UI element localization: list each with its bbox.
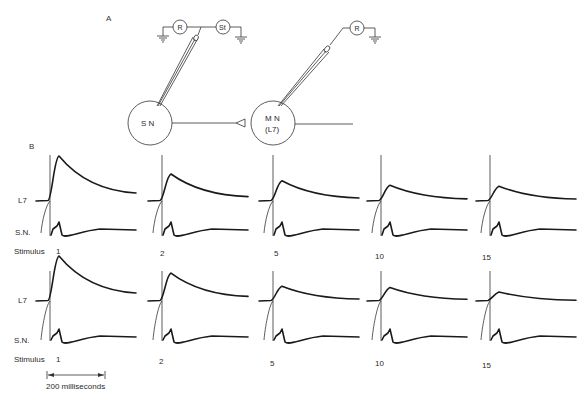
l7-epsp-trace bbox=[36, 156, 136, 201]
l7-epsp-trace bbox=[367, 288, 467, 302]
sn-pre-trace bbox=[264, 301, 273, 340]
l7-epsp-trace bbox=[148, 174, 248, 201]
sn-action-potential-trace bbox=[382, 222, 467, 236]
sn-action-potential-trace bbox=[51, 329, 136, 343]
motor-neuron-label: M N bbox=[265, 114, 280, 123]
scale-bar-label: 200 milliseconds bbox=[46, 382, 105, 391]
wire bbox=[364, 28, 375, 37]
sn-pre-trace bbox=[153, 201, 162, 233]
row-label-sn: S.N. bbox=[15, 228, 31, 237]
panel-a: A R St bbox=[106, 14, 381, 145]
stimulus-number: 2 bbox=[160, 249, 165, 258]
sn-action-potential-trace bbox=[274, 329, 359, 343]
stimulator-st-label: St bbox=[219, 24, 226, 31]
sn-action-potential-trace bbox=[274, 222, 359, 236]
synapse-terminal-icon bbox=[236, 119, 245, 127]
arrow-right-icon bbox=[98, 373, 104, 377]
stimulus-number: 1 bbox=[56, 355, 61, 364]
sn-action-potential-trace bbox=[51, 222, 136, 236]
sn-pre-trace bbox=[41, 301, 50, 340]
recorder-r-label-2: R bbox=[355, 25, 360, 32]
stimulus-number: 5 bbox=[270, 359, 275, 368]
row-label-stimulus: Stimulus bbox=[14, 247, 45, 256]
time-scale-bar: 200 milliseconds bbox=[46, 371, 105, 391]
microelectrode-mn bbox=[278, 28, 350, 106]
sn-pre-trace bbox=[41, 201, 50, 233]
l7-epsp-trace bbox=[476, 186, 576, 201]
sn-pre-trace bbox=[372, 301, 381, 340]
l7-epsp-trace bbox=[259, 181, 359, 201]
wire bbox=[230, 27, 241, 37]
row-label-l7: L7 bbox=[18, 196, 27, 205]
sn-action-potential-trace bbox=[491, 222, 576, 236]
arrow-left-icon bbox=[48, 373, 54, 377]
stimulus-number: 15 bbox=[482, 253, 491, 262]
motor-neuron-sublabel: (L7) bbox=[265, 125, 280, 134]
l7-epsp-trace bbox=[36, 256, 136, 301]
figure: A R St bbox=[0, 0, 586, 403]
stim-record-circuit: R St bbox=[157, 20, 247, 106]
l7-epsp-trace bbox=[367, 185, 467, 201]
sn-pre-trace bbox=[153, 301, 162, 340]
sensory-neuron-label: S N bbox=[141, 119, 155, 128]
sn-action-potential-trace bbox=[163, 222, 248, 236]
stimulus-number: 10 bbox=[375, 359, 384, 368]
l7-epsp-trace bbox=[476, 292, 576, 301]
sn-pre-trace bbox=[372, 201, 381, 233]
ground-icon bbox=[157, 36, 169, 42]
trace-grid bbox=[36, 155, 576, 343]
panel-a-label: A bbox=[106, 14, 112, 23]
motor-neuron bbox=[251, 101, 295, 145]
sn-action-potential-trace bbox=[382, 329, 467, 343]
row-label-sn: S.N. bbox=[14, 336, 30, 345]
row-label-stimulus: Stimulus bbox=[14, 355, 45, 364]
l7-epsp-trace bbox=[259, 286, 359, 301]
sn-action-potential-trace bbox=[491, 329, 576, 343]
l7-epsp-trace bbox=[148, 273, 248, 301]
recorder-r-label: R bbox=[178, 24, 183, 31]
sn-pre-trace bbox=[264, 201, 273, 233]
sn-pre-trace bbox=[481, 201, 490, 233]
stimulus-number: 1 bbox=[56, 247, 61, 256]
stimulus-number: 5 bbox=[274, 249, 279, 258]
row-label-l7: L7 bbox=[18, 296, 27, 305]
sn-action-potential-trace bbox=[163, 329, 248, 343]
stimulus-number: 2 bbox=[159, 357, 164, 366]
panel-b-label: B bbox=[29, 142, 34, 151]
wire bbox=[163, 27, 173, 36]
stimulus-number: 15 bbox=[482, 361, 491, 370]
sn-pre-trace bbox=[481, 301, 490, 340]
panel-b: B L7 S.N. Stimulus L7 S.N. Stimulus 1 2 … bbox=[14, 142, 576, 391]
stimulus-number: 10 bbox=[375, 252, 384, 261]
microelectrode-sn bbox=[157, 27, 201, 106]
wire bbox=[330, 28, 350, 45]
ground-icon bbox=[235, 37, 247, 43]
ground-icon bbox=[369, 37, 381, 43]
